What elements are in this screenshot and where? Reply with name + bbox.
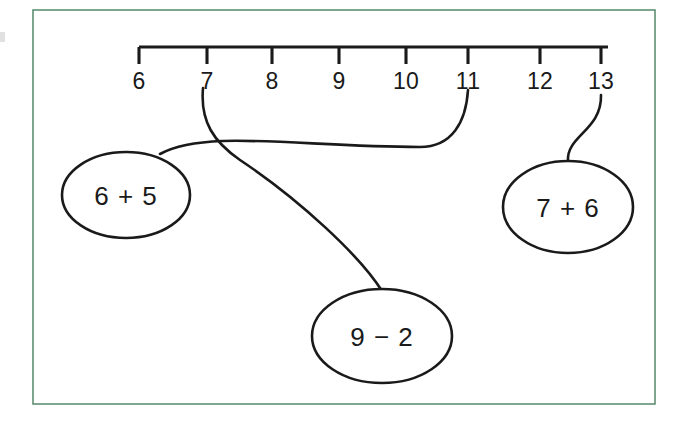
- bubble-6-plus-5[interactable]: 6 + 5: [62, 152, 190, 238]
- worksheet-drawing: 678910111213 6 + 59 − 27 + 6: [0, 0, 688, 421]
- number-line-ticks: [139, 47, 601, 64]
- number-line-label-13: 13: [588, 68, 614, 94]
- connector-7-plus-6-to-13: [568, 95, 601, 161]
- bubble-6-plus-5-label: 6 + 5: [94, 181, 158, 211]
- number-line-label-12: 12: [527, 68, 553, 94]
- answer-bubbles: 6 + 59 − 27 + 6: [62, 152, 633, 383]
- number-line-label-8: 8: [265, 68, 278, 94]
- bubble-9-minus-2[interactable]: 9 − 2: [312, 289, 452, 383]
- worksheet-canvas: 678910111213 6 + 59 − 27 + 6: [0, 0, 688, 421]
- bubble-7-plus-6-label: 7 + 6: [536, 193, 600, 223]
- number-line-label-9: 9: [332, 68, 345, 94]
- page-edge-artifact: [0, 32, 5, 42]
- number-line-label-10: 10: [393, 68, 419, 94]
- number-line-label-6: 6: [132, 68, 145, 94]
- bubble-7-plus-6[interactable]: 7 + 6: [503, 161, 633, 253]
- number-line-labels: 678910111213: [132, 68, 614, 94]
- bubble-9-minus-2-label: 9 − 2: [350, 322, 414, 352]
- number-line: 678910111213: [132, 47, 614, 94]
- connector-9-minus-2-to-7: [203, 88, 382, 291]
